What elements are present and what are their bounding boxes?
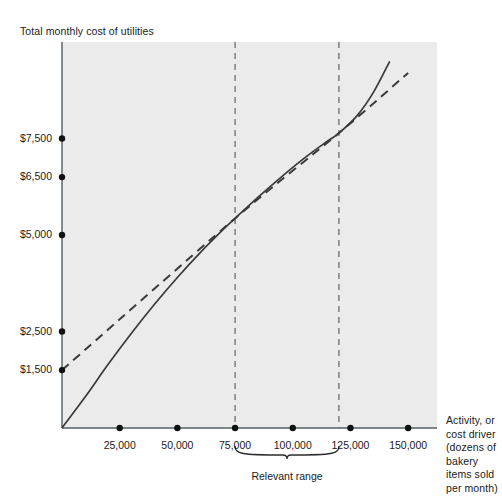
plot-background-rect bbox=[62, 42, 437, 428]
x-tick-label: 150,000 bbox=[373, 439, 443, 451]
y-tick-mark bbox=[59, 328, 65, 334]
chart-canvas bbox=[0, 0, 502, 502]
y-tick-mark bbox=[59, 135, 65, 141]
x-axis-title: Activity, or cost driver (dozens of bake… bbox=[446, 414, 502, 496]
y-tick-label: $7,500 bbox=[0, 132, 52, 144]
y-tick-label: $5,000 bbox=[0, 228, 52, 240]
relevant-range-label: Relevant range bbox=[207, 470, 367, 482]
x-tick-mark bbox=[347, 425, 353, 431]
x-tick-mark bbox=[174, 425, 180, 431]
x-tick-mark bbox=[290, 425, 296, 431]
x-tick-mark bbox=[116, 425, 122, 431]
y-tick-label: $2,500 bbox=[0, 325, 52, 337]
chart-figure: Total monthly cost of utilities $1,500$2… bbox=[0, 0, 502, 502]
y-tick-label: $6,500 bbox=[0, 170, 52, 182]
x-tick-mark bbox=[232, 425, 238, 431]
plot-area-background bbox=[62, 42, 437, 428]
x-tick-mark bbox=[405, 425, 411, 431]
y-tick-mark bbox=[59, 174, 65, 180]
y-tick-mark bbox=[59, 232, 65, 238]
y-tick-mark bbox=[59, 367, 65, 373]
y-tick-label: $1,500 bbox=[0, 363, 52, 375]
